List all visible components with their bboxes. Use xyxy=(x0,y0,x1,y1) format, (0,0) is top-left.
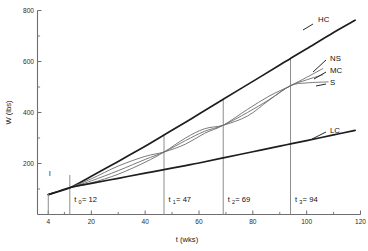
time-marker-label-t3: t3= 94 xyxy=(295,195,318,205)
curve-HC xyxy=(48,20,355,194)
y-tick-label: 400 xyxy=(23,109,34,116)
series-label-NS: NS xyxy=(330,54,341,63)
time-marker-label-t0: t0= 12 xyxy=(74,195,97,205)
marker-value: = 12 xyxy=(82,195,97,204)
y-tick-label: 600 xyxy=(23,58,34,65)
label-leader-lines xyxy=(303,24,326,139)
x-tick-label: 60 xyxy=(195,218,203,225)
time-marker-label-t2: t2= 69 xyxy=(228,195,251,205)
time-marker-lines xyxy=(70,58,291,214)
x-tick-label: 120 xyxy=(355,218,366,225)
time-marker-label-t1: t1= 47 xyxy=(169,195,192,205)
curve-S xyxy=(70,82,328,188)
marker-letter: t xyxy=(228,195,231,204)
x-tick-label: 4 xyxy=(46,218,50,225)
chart-annotations: I xyxy=(48,169,51,214)
y-tick-label: 200 xyxy=(23,160,34,167)
series-label-S: S xyxy=(330,78,335,87)
leader-HC xyxy=(303,24,313,30)
marker-value: = 69 xyxy=(235,195,250,204)
time-marker-labels: t0= 12t1= 47t2= 69t3= 94 xyxy=(74,195,317,205)
marker-letter: t xyxy=(74,195,77,204)
x-tick-label: 80 xyxy=(249,218,257,225)
x-tick-label: 40 xyxy=(141,218,149,225)
x-tick-label: 100 xyxy=(301,218,312,225)
curve-LC xyxy=(48,130,355,194)
marker-letter: t xyxy=(295,195,298,204)
x-axis-title: t (wks) xyxy=(176,235,199,244)
y-axis-tick-labels: 200400600800 xyxy=(23,7,34,167)
y-tick-label: 800 xyxy=(23,7,34,14)
leader-MC xyxy=(314,72,326,79)
y-axis-title: W (lbs) xyxy=(4,100,13,125)
chart-svg: 200400600800 420406080100120 HCNSMCSLC t… xyxy=(0,0,368,251)
curve-group xyxy=(48,20,355,194)
marker-value: = 94 xyxy=(303,195,318,204)
series-label-MC: MC xyxy=(330,66,342,75)
series-label-HC: HC xyxy=(318,15,330,24)
marker-value: = 47 xyxy=(176,195,191,204)
x-axis-major-ticks xyxy=(48,211,360,215)
series-label-LC: LC xyxy=(330,126,340,135)
curve-NS xyxy=(70,69,323,188)
weight-growth-chart: 200400600800 420406080100120 HCNSMCSLC t… xyxy=(0,0,368,251)
marker-letter: t xyxy=(169,195,172,204)
x-axis-tick-labels: 420406080100120 xyxy=(46,218,366,225)
leader-S xyxy=(316,84,326,86)
annotation-initial-marker: I xyxy=(49,169,51,178)
x-tick-label: 20 xyxy=(88,218,96,225)
